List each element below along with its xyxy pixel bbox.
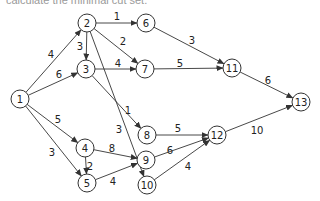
node-3: 3: [77, 60, 95, 78]
edge-weight-11-13: 6: [265, 75, 271, 86]
node-4: 4: [76, 139, 94, 157]
node-label: 3: [83, 64, 89, 75]
edge-weight-5-9: 4: [110, 176, 116, 187]
node-label: 9: [143, 155, 149, 166]
edge-1-5: [26, 106, 82, 176]
node-label: 12: [211, 130, 224, 141]
edge-10-12: [154, 140, 209, 180]
edge-weight-1-2: 4: [48, 49, 54, 60]
edge-1-4: [27, 104, 78, 142]
node-2: 2: [78, 14, 96, 32]
node-11: 11: [223, 59, 241, 77]
node-label: 13: [295, 97, 308, 108]
edge-weight-2-3: 3: [77, 41, 83, 52]
edge-2-10: [90, 31, 144, 176]
edge-4-9: [94, 150, 137, 159]
node-12: 12: [208, 126, 226, 144]
node-5: 5: [78, 174, 96, 192]
node-9: 9: [137, 151, 155, 169]
edge-weight-8-12: 5: [175, 123, 181, 134]
nodes-layer: 12367111384912510: [11, 14, 310, 194]
edge-weight-3-8: 1: [125, 105, 131, 116]
edge-weight-12-13: 10: [251, 125, 264, 136]
node-label: 2: [84, 18, 90, 29]
edge-3-8: [92, 76, 141, 129]
node-label: 7: [142, 64, 148, 75]
node-label: 8: [144, 130, 150, 141]
edge-2-3: [86, 32, 87, 60]
node-13: 13: [292, 93, 310, 111]
edge-weight-1-4: 5: [55, 114, 61, 125]
edge-weight-1-5: 3: [49, 147, 55, 158]
node-8: 8: [138, 126, 156, 144]
edge-weight-2-6: 1: [114, 11, 120, 22]
node-6: 6: [137, 14, 155, 32]
edge-weight-10-12: 4: [185, 161, 191, 172]
edge-9-12: [155, 138, 209, 157]
edge-5-9: [95, 163, 137, 179]
node-7: 7: [136, 60, 154, 78]
node-10: 10: [138, 176, 156, 194]
edge-labels-layer: 465313234135658246410: [48, 11, 271, 187]
node-label: 11: [226, 63, 239, 74]
edge-7-11: [154, 68, 223, 69]
edge-weight-7-11: 5: [177, 58, 183, 69]
node-label: 6: [143, 18, 149, 29]
network-diagram: 465313234135658246410 12367111384912510: [0, 0, 320, 201]
edge-weight-4-5: 2: [87, 161, 93, 172]
edges-layer: [26, 23, 293, 180]
edge-weight-9-12: 6: [167, 145, 173, 156]
node-label: 10: [141, 180, 154, 191]
edge-weight-3-7: 4: [115, 58, 121, 69]
edge-weight-2-10: 3: [116, 124, 122, 135]
edge-weight-4-9: 8: [109, 143, 115, 154]
edge-weight-2-7: 2: [120, 36, 126, 47]
node-label: 1: [17, 94, 23, 105]
node-label: 5: [84, 178, 90, 189]
node-1: 1: [11, 90, 29, 108]
edge-1-3: [28, 73, 78, 96]
edge-weight-6-11: 3: [189, 35, 195, 46]
edge-1-2: [26, 30, 81, 92]
edge-6-11: [154, 27, 224, 64]
edge-weight-1-3: 6: [56, 69, 62, 80]
node-label: 4: [82, 143, 88, 154]
